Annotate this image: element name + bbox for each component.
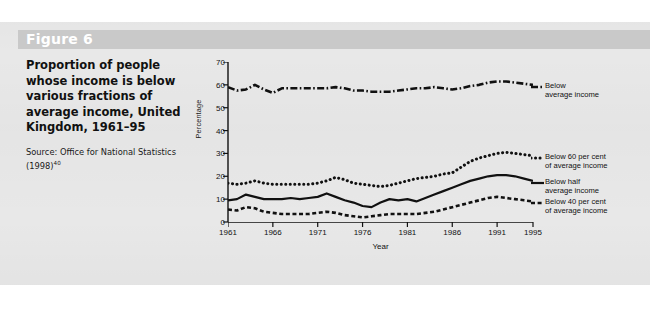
series-line-2 [228, 175, 533, 207]
legend-entry: Below 60 per centof average income [545, 152, 650, 170]
chart: Percentage 010203040506070 Year 19611966… [196, 62, 541, 262]
legend-label-line1: Below 40 per cent [545, 197, 650, 206]
legend-swatch-3 [531, 199, 545, 207]
legend-swatch-0 [531, 83, 545, 91]
figure-title: Proportion of people whose income is bel… [26, 58, 191, 136]
legend-entry: Belowaverage income [545, 81, 650, 99]
x-axis-spine [228, 222, 543, 232]
figure-source: Source: Office for National Statistics (… [26, 147, 191, 172]
figure-page: Figure 6 Proportion of people whose inco… [0, 0, 650, 311]
figure-number-label: Figure 6 [26, 31, 93, 47]
legend-entry: Below halfaverage income [545, 177, 650, 195]
figure-source-text: Source: Office for National Statistics (… [26, 147, 176, 171]
figure-source-reference: 40 [54, 160, 61, 166]
legend-swatch-2 [531, 179, 545, 187]
series-svg [228, 62, 533, 222]
legend-label-line2: of average income [545, 161, 650, 170]
plot-area [228, 62, 533, 222]
x-axis-label: Year [228, 242, 533, 251]
legend-label-line1: Below half [545, 177, 650, 186]
series-line-0 [228, 81, 533, 92]
legend-label-line1: Below 60 per cent [545, 152, 650, 161]
figure-caption: Proportion of people whose income is bel… [26, 58, 191, 171]
figure-banner: Figure 6 [18, 30, 650, 49]
legend-label-line1: Below [545, 81, 650, 90]
y-axis-ticks: 010203040506070 [196, 62, 225, 222]
legend-label-line2: average income [545, 90, 650, 99]
y-axis-spine [196, 62, 229, 232]
legend-label-line2: of average income [545, 206, 650, 215]
legend-entry: Below 40 per centof average income [545, 197, 650, 215]
series-line-1 [228, 152, 533, 186]
legend-label-line2: average income [545, 186, 650, 195]
legend-swatch-1 [531, 154, 545, 162]
